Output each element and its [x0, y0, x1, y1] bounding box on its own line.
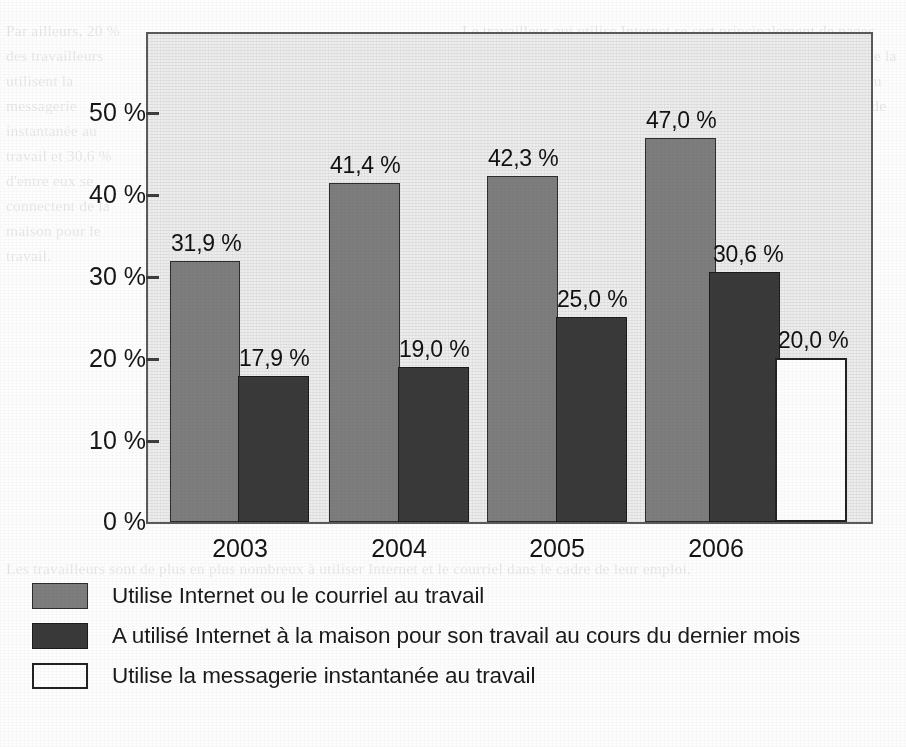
y-axis-label-30: 30 % [50, 262, 146, 291]
bar-2005-series-0 [487, 176, 558, 522]
legend-swatch-medium-gray [32, 583, 88, 609]
bar-2003-series-1 [238, 376, 309, 522]
y-axis-tick-50 [146, 112, 159, 115]
y-axis-label-0: 0 % [50, 507, 146, 536]
legend-item-0[interactable]: Utilise Internet ou le courriel au trava… [32, 576, 892, 616]
y-axis-tick-30 [146, 276, 159, 279]
x-axis-label-2004: 2004 [329, 534, 469, 563]
y-axis-tick-20 [146, 358, 159, 361]
x-axis-label-2005: 2005 [487, 534, 627, 563]
y-axis-tick-40 [146, 194, 159, 197]
legend-swatch-dark-gray [32, 623, 88, 649]
bar-2006-series-1 [709, 272, 780, 522]
figure-page: Par ailleurs, 20 % des travailleurs util… [0, 0, 906, 747]
y-axis-label-20: 20 % [50, 344, 146, 373]
bar-2005-series-1 [556, 317, 627, 522]
bar-value-2005-series-0: 42,3 % [488, 145, 558, 172]
bar-value-2003-series-1: 17,9 % [239, 345, 309, 372]
legend-label-0: Utilise Internet ou le courriel au trava… [112, 583, 484, 609]
y-axis-tick-10 [146, 440, 159, 443]
bar-value-2006-series-2: 20,0 % [778, 327, 848, 354]
legend-swatch-white [32, 663, 88, 689]
bar-value-2004-series-1: 19,0 % [399, 336, 469, 363]
bar-2006-series-0 [645, 138, 716, 522]
bar-value-2006-series-1: 30,6 % [713, 241, 783, 268]
chart-legend: Utilise Internet ou le courriel au trava… [32, 576, 892, 696]
bar-2003-series-0 [170, 261, 240, 522]
legend-item-2[interactable]: Utilise la messagerie instantanée au tra… [32, 656, 892, 696]
x-axis-label-2006: 2006 [646, 534, 786, 563]
legend-label-1: A utilisé Internet à la maison pour son … [112, 623, 800, 649]
bar-2004-series-0 [329, 183, 400, 522]
bar-2006-series-2 [775, 358, 847, 522]
bar-value-2005-series-1: 25,0 % [557, 286, 627, 313]
legend-label-2: Utilise la messagerie instantanée au tra… [112, 663, 535, 689]
y-axis-label-50: 50 % [50, 98, 146, 127]
bar-value-2004-series-0: 41,4 % [330, 152, 400, 179]
y-axis-label-40: 40 % [50, 180, 146, 209]
y-axis-label-10: 10 % [50, 426, 146, 455]
bar-value-2003-series-0: 31,9 % [171, 230, 241, 257]
x-axis-label-2003: 2003 [170, 534, 310, 563]
legend-item-1[interactable]: A utilisé Internet à la maison pour son … [32, 616, 892, 656]
bar-2004-series-1 [398, 367, 469, 522]
bar-value-2006-series-0: 47,0 % [646, 107, 716, 134]
